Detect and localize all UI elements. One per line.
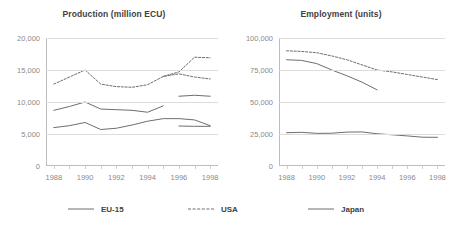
gridline-y xyxy=(279,70,445,71)
x-axis-tick-mark xyxy=(332,166,333,169)
x-axis-tick-mark xyxy=(302,166,303,169)
series-line-eu-15 xyxy=(287,60,378,90)
legend-label-eu-15: EU-15 xyxy=(101,205,124,214)
x-axis-tick-label: 1990 xyxy=(77,173,94,182)
x-axis-tick-mark xyxy=(407,166,408,169)
x-axis-tick-mark xyxy=(347,166,348,169)
legend-line-icon-eu-15 xyxy=(68,205,94,213)
gridline-y xyxy=(279,38,445,39)
chart-title-production: Production (million ECU) xyxy=(0,9,228,19)
x-axis-tick-mark xyxy=(148,166,149,169)
series-line-usa xyxy=(287,51,438,80)
series-line-eu-15 xyxy=(179,95,210,96)
chart-panel-employment: Employment (units) 025,00050,00075,00010… xyxy=(227,0,455,190)
x-axis-tick-mark xyxy=(362,166,363,169)
x-axis-tick-mark xyxy=(179,166,180,169)
y-axis-tick-label: 50,000 xyxy=(250,98,279,107)
gridline-y xyxy=(46,102,218,103)
chart-legend: EU-15 USA Japan xyxy=(0,196,455,222)
gridline-y xyxy=(279,102,445,103)
x-axis-tick-mark xyxy=(317,166,318,169)
x-axis-tick-mark xyxy=(287,166,288,169)
x-axis-tick-mark xyxy=(392,166,393,169)
x-axis-tick-mark xyxy=(377,166,378,169)
series-line-usa xyxy=(163,57,210,76)
plot-area-employment: 025,00050,00075,000100,00019881990199219… xyxy=(279,38,445,166)
x-axis-tick-mark xyxy=(85,166,86,169)
x-axis-tick-label: 1990 xyxy=(308,173,325,182)
x-axis-tick-mark xyxy=(163,166,164,169)
x-axis-tick-mark xyxy=(195,166,196,169)
y-axis-tick-label: 0 xyxy=(269,162,279,171)
gridline-y xyxy=(279,134,445,135)
y-axis-tick-label: 75,000 xyxy=(250,66,279,75)
x-axis-tick-mark xyxy=(132,166,133,169)
y-axis-tick-label: 100,000 xyxy=(246,34,279,43)
legend-line-icon-usa xyxy=(188,205,214,213)
y-axis-tick-label: 0 xyxy=(36,162,46,171)
chart-panel-production: Production (million ECU) 05,00010,00015,… xyxy=(0,0,228,190)
x-axis-tick-mark xyxy=(210,166,211,169)
chart-title-employment: Employment (units) xyxy=(227,9,455,19)
x-axis-tick-label: 1992 xyxy=(339,173,356,182)
x-axis-tick-label: 1988 xyxy=(45,173,62,182)
legend-label-japan: Japan xyxy=(341,205,364,214)
y-axis-tick-label: 15,000 xyxy=(17,66,46,75)
x-axis-tick-label: 1996 xyxy=(171,173,188,182)
x-axis-tick-label: 1992 xyxy=(108,173,125,182)
plot-area-production: 05,00010,00015,00020,0001988199019921994… xyxy=(46,38,218,166)
series-line-usa xyxy=(54,70,210,87)
x-axis-tick-mark xyxy=(422,166,423,169)
legend-label-usa: USA xyxy=(221,205,238,214)
y-axis-tick-label: 25,000 xyxy=(250,130,279,139)
y-axis-tick-label: 5,000 xyxy=(21,130,46,139)
legend-item-eu-15: EU-15 xyxy=(68,196,124,222)
gridline-y xyxy=(46,134,218,135)
series-line-japan xyxy=(54,119,210,130)
x-axis-tick-label: 1998 xyxy=(202,173,219,182)
x-axis-tick-label: 1996 xyxy=(399,173,416,182)
x-axis-tick-label: 1988 xyxy=(278,173,295,182)
series-line-eu-15 xyxy=(54,102,163,112)
x-axis-tick-label: 1994 xyxy=(139,173,156,182)
y-axis-tick-label: 20,000 xyxy=(17,34,46,43)
x-axis-tick-mark xyxy=(116,166,117,169)
x-axis-tick-mark xyxy=(101,166,102,169)
x-axis-tick-label: 1998 xyxy=(429,173,446,182)
legend-line-icon-japan xyxy=(308,205,334,213)
gridline-y xyxy=(46,38,218,39)
x-axis-tick-label: 1994 xyxy=(369,173,386,182)
gridline-y xyxy=(46,70,218,71)
legend-item-usa: USA xyxy=(188,196,238,222)
x-axis-tick-mark xyxy=(54,166,55,169)
x-axis-tick-mark xyxy=(437,166,438,169)
x-axis-tick-mark xyxy=(69,166,70,169)
y-axis-tick-label: 10,000 xyxy=(17,98,46,107)
legend-item-japan: Japan xyxy=(308,196,364,222)
chart-figure: Production (million ECU) 05,00010,00015,… xyxy=(0,0,455,225)
